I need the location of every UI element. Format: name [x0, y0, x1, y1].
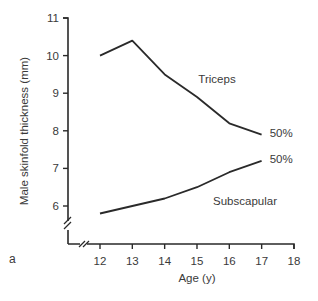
- percentile-label: 50%: [270, 127, 293, 139]
- y-axis: 67891011: [46, 12, 71, 244]
- series-name-label: Triceps: [198, 73, 236, 85]
- x-tick-label: 12: [94, 255, 107, 267]
- y-tick-label: 10: [46, 50, 59, 62]
- x-tick-label: 13: [126, 255, 139, 267]
- y-tick-label: 6: [53, 200, 59, 212]
- y-tick-label: 11: [47, 12, 59, 24]
- skinfold-line-chart: 67891011 12131415161718 50%Triceps50%Sub…: [0, 0, 318, 301]
- y-tick-label: 8: [53, 125, 59, 137]
- x-tick-label: 17: [255, 255, 268, 267]
- x-tick-label: 15: [191, 255, 204, 267]
- series-name-label: Subscapular: [213, 195, 277, 207]
- series-line-triceps: [100, 41, 262, 135]
- x-axis-label: Age (y): [178, 272, 215, 284]
- x-tick-label: 16: [223, 255, 236, 267]
- y-tick-label: 7: [53, 162, 59, 174]
- series-layer: 50%Triceps50%Subscapular: [100, 41, 293, 214]
- percentile-label: 50%: [270, 153, 293, 165]
- x-tick-label: 18: [288, 255, 301, 267]
- y-tick-label: 9: [53, 87, 59, 99]
- x-tick-label: 14: [158, 255, 171, 267]
- y-axis-label: Male skinfold thickness (mm): [18, 57, 30, 205]
- x-axis: 12131415161718: [68, 241, 300, 267]
- panel-label: a: [9, 252, 16, 266]
